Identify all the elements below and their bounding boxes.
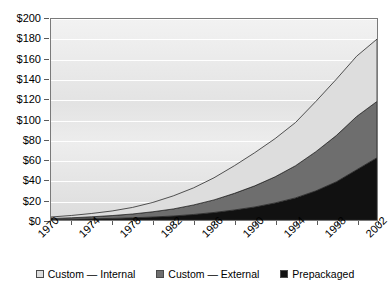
y-tick-mark: [44, 140, 49, 141]
y-tick-label: $60: [23, 155, 41, 166]
y-tick-mark: [44, 59, 49, 60]
y-tick-label: $80: [23, 135, 41, 146]
y-tick-label: $20: [23, 196, 41, 207]
legend-label: Custom — Internal: [48, 269, 136, 280]
y-tick-label: $40: [23, 175, 41, 186]
y-tick-label: $160: [17, 54, 41, 65]
y-tick-mark: [44, 38, 49, 39]
y-tick-mark: [44, 201, 49, 202]
legend-label: Custom — External: [168, 269, 259, 280]
y-tick-mark: [44, 120, 49, 121]
legend-swatch-icon: [280, 270, 288, 278]
y-tick-mark: [44, 160, 49, 161]
y-tick-label: $140: [17, 74, 41, 85]
x-axis: 197019741978198219861990199419982002: [0, 224, 390, 264]
y-tick-mark: [44, 99, 49, 100]
legend-swatch-icon: [156, 270, 164, 278]
chart-figure: $0$20$40$60$80$100$120$140$160$180$200 1…: [0, 0, 390, 289]
legend-item[interactable]: Prepackaged: [280, 269, 354, 280]
y-tick-mark: [44, 79, 49, 80]
legend-swatch-icon: [36, 270, 44, 278]
plot-area: [50, 18, 378, 221]
legend-item[interactable]: Custom — Internal: [36, 269, 136, 280]
stacked-area-series: [51, 19, 377, 220]
y-tick-mark: [44, 180, 49, 181]
legend-label: Prepackaged: [292, 269, 354, 280]
y-axis: $0$20$40$60$80$100$120$140$160$180$200: [0, 0, 48, 225]
chart-legend: Custom — InternalCustom — ExternalPrepac…: [0, 266, 390, 282]
y-tick-label: $120: [17, 94, 41, 105]
y-tick-label: $200: [17, 13, 41, 24]
legend-item[interactable]: Custom — External: [156, 269, 259, 280]
y-tick-label: $100: [17, 115, 41, 126]
y-tick-label: $180: [17, 33, 41, 44]
y-tick-mark: [44, 18, 49, 19]
